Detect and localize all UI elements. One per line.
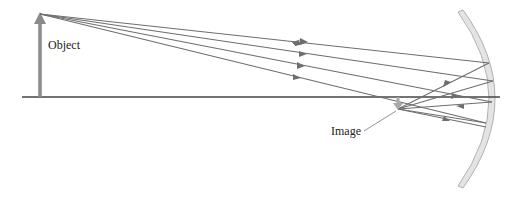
object-arrow [34, 12, 46, 97]
image-leader-line [364, 111, 396, 131]
incident-ray-arrows [293, 38, 308, 80]
object-label: Object [48, 38, 81, 52]
ray-diagram: Object Image [0, 0, 515, 197]
image-label: Image [331, 124, 361, 138]
